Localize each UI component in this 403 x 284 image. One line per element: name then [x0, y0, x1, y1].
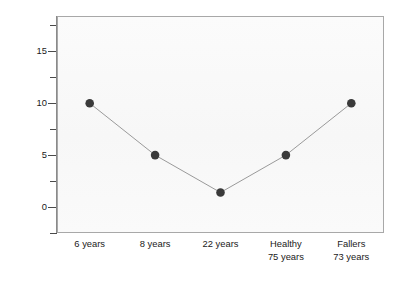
- data-point: [85, 99, 94, 108]
- x-label-line1: 22 years: [203, 238, 239, 249]
- x-axis-category-label: Healthy75 years: [268, 238, 304, 263]
- data-point: [282, 151, 291, 160]
- chart-figure: Percentage Errors (search time > 20 sec)…: [0, 0, 403, 284]
- y-tick-label: 0: [3, 201, 47, 212]
- x-label-line1: Fallers: [337, 238, 365, 249]
- x-label-line2: 75 years: [268, 251, 304, 264]
- y-tick-label: 15: [3, 45, 47, 56]
- x-axis-category-label: 6 years: [74, 238, 105, 251]
- x-axis-labels: 6 years8 years22 yearsHealthy75 yearsFal…: [57, 238, 384, 278]
- x-label-line1: Healthy: [270, 238, 302, 249]
- y-tick-label: 10: [3, 97, 47, 108]
- data-series-layer: [57, 16, 384, 233]
- x-axis-category-label: Fallers73 years: [333, 238, 369, 263]
- x-axis-category-label: 22 years: [203, 238, 239, 251]
- y-tick-label: 5: [3, 149, 47, 160]
- data-point: [151, 151, 160, 160]
- x-label-line1: 8 years: [140, 238, 171, 249]
- y-minor-tick: [50, 233, 57, 234]
- series-line: [90, 103, 352, 192]
- data-point: [216, 188, 225, 197]
- x-label-line2: 73 years: [333, 251, 369, 264]
- series-markers: [85, 99, 355, 197]
- data-point: [347, 99, 356, 108]
- x-label-line1: 6 years: [74, 238, 105, 249]
- x-axis-category-label: 8 years: [140, 238, 171, 251]
